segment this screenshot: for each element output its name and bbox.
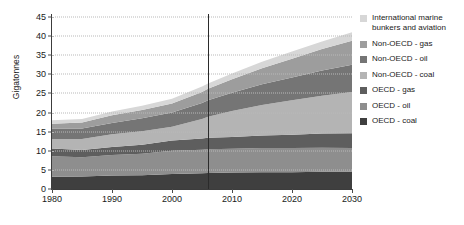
legend-swatch-icon	[360, 56, 367, 63]
y-tick-mark	[48, 169, 52, 170]
legend-label: Non-OECD - coal	[372, 70, 434, 80]
x-tick-mark	[112, 189, 113, 193]
x-tick-label: 2030	[342, 194, 362, 204]
y-tick-mark	[48, 55, 52, 56]
y-tick-label: 0	[41, 184, 46, 194]
y-tick-label: 15	[36, 127, 46, 137]
y-tick-label: 5	[41, 165, 46, 175]
x-tick-label: 2010	[222, 194, 242, 204]
legend-label: International marine bunkers and aviatio…	[372, 13, 446, 33]
y-tick-mark	[48, 112, 52, 113]
gridline	[52, 55, 352, 56]
y-tick-mark	[48, 93, 52, 94]
chart-legend: International marine bunkers and aviatio…	[360, 13, 464, 132]
plot-inner	[52, 17, 352, 189]
chart-page: Gigatonnes 051015202530354045 1980199020…	[0, 0, 464, 225]
legend-label: OECD - gas	[372, 85, 415, 95]
y-tick-label: 10	[36, 146, 46, 156]
projection-divider-line	[208, 14, 209, 189]
legend-item[interactable]: International marine bunkers and aviatio…	[360, 13, 464, 33]
y-tick-mark	[48, 131, 52, 132]
legend-item[interactable]: OECD - oil	[360, 101, 464, 111]
x-tick-label: 2000	[162, 194, 182, 204]
y-tick-label: 20	[36, 108, 46, 118]
legend-swatch-icon	[360, 41, 367, 48]
legend-item[interactable]: Non-OECD - gas	[360, 39, 464, 49]
stacked-areas	[52, 17, 352, 189]
x-tick-mark	[52, 189, 53, 193]
gridline	[52, 36, 352, 37]
x-tick-label: 2020	[282, 194, 302, 204]
gridline	[52, 17, 352, 18]
legend-label: OECD - oil	[372, 101, 410, 111]
gridline	[52, 150, 352, 151]
legend-swatch-icon	[360, 72, 367, 79]
y-tick-label: 35	[36, 50, 46, 60]
legend-item[interactable]: Non-OECD - oil	[360, 54, 464, 64]
y-axis-title: Gigatonnes	[11, 37, 21, 117]
gridline	[52, 74, 352, 75]
legend-swatch-icon	[360, 103, 367, 110]
legend-swatch-icon	[360, 118, 367, 125]
x-tick-label: 1990	[102, 194, 122, 204]
gridline	[52, 93, 352, 94]
plot-area: 051015202530354045 198019902000201020202…	[52, 17, 352, 189]
legend-item[interactable]: OECD - coal	[360, 116, 464, 126]
y-tick-label: 45	[36, 12, 46, 22]
gridline	[52, 112, 352, 113]
x-tick-mark	[352, 189, 353, 193]
x-tick-mark	[292, 189, 293, 193]
y-tick-mark	[48, 36, 52, 37]
x-tick-mark	[232, 189, 233, 193]
gridline	[52, 131, 352, 132]
y-tick-label: 25	[36, 88, 46, 98]
y-tick-mark	[48, 74, 52, 75]
legend-item[interactable]: OECD - gas	[360, 85, 464, 95]
legend-item[interactable]: Non-OECD - coal	[360, 70, 464, 80]
x-tick-label: 1980	[42, 194, 62, 204]
legend-label: OECD - coal	[372, 116, 417, 126]
x-tick-mark	[172, 189, 173, 193]
gridline	[52, 169, 352, 170]
x-axis-line	[51, 189, 353, 190]
legend-label: Non-OECD - oil	[372, 54, 428, 64]
y-tick-label: 30	[36, 69, 46, 79]
y-tick-mark	[48, 150, 52, 151]
y-tick-mark	[48, 17, 52, 18]
legend-label: Non-OECD - gas	[372, 39, 432, 49]
legend-swatch-icon	[360, 15, 367, 22]
y-tick-label: 40	[36, 31, 46, 41]
legend-swatch-icon	[360, 87, 367, 94]
